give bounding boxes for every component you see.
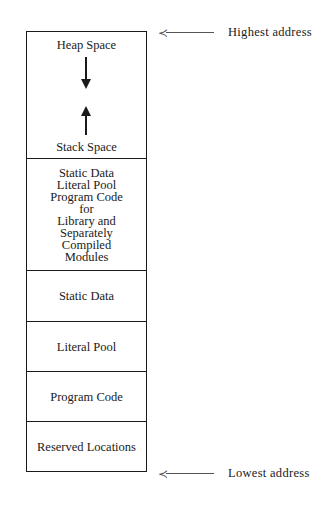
- library-line: Library and: [57, 215, 116, 227]
- library-line: Modules: [65, 251, 109, 263]
- program-code-label: Program Code: [50, 391, 123, 403]
- literal-pool-label: Literal Pool: [57, 341, 116, 353]
- reserved-locations-label: Reserved Locations: [37, 441, 136, 453]
- pointer-line: [166, 32, 214, 33]
- lowest-address-label: Lowest address: [228, 466, 310, 481]
- library-line: Separately: [60, 227, 113, 239]
- library-line: Program Code: [50, 191, 123, 203]
- highest-address-label: Highest address: [228, 25, 312, 40]
- stack-space-label: Stack Space: [27, 141, 146, 153]
- static-data-segment: Static Data: [27, 271, 146, 322]
- stack-arrow-shaft: [85, 115, 87, 135]
- library-line: Static Data: [59, 167, 114, 179]
- highest-address-pointer: ≺ Highest address: [158, 25, 312, 40]
- library-line: Literal Pool: [57, 179, 116, 191]
- memory-layout-box: Heap Space Stack Space Static Data Liter…: [26, 31, 147, 472]
- program-code-segment: Program Code: [27, 372, 146, 422]
- pointer-line: [166, 473, 214, 474]
- heap-space-label: Heap Space: [27, 39, 146, 51]
- library-line: Compiled: [62, 239, 111, 251]
- static-data-label: Static Data: [59, 290, 114, 302]
- library-line: for: [79, 203, 94, 215]
- reserved-locations-segment: Reserved Locations: [27, 422, 146, 471]
- library-modules-segment: Static Data Literal Pool Program Code fo…: [27, 159, 146, 271]
- lowest-address-pointer: ≺ Lowest address: [158, 466, 310, 481]
- heap-arrow-shaft: [85, 57, 87, 81]
- literal-pool-segment: Literal Pool: [27, 322, 146, 372]
- heap-stack-segment: Heap Space Stack Space: [27, 32, 146, 159]
- arrow-down-icon: [81, 79, 91, 89]
